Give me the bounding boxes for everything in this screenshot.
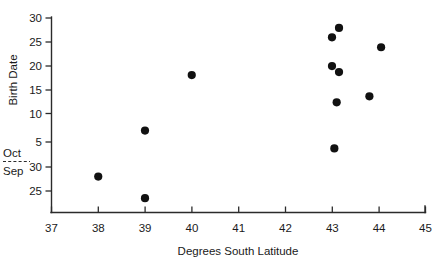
month-label-sep: Sep bbox=[3, 165, 23, 177]
y-tick-label: 5 bbox=[36, 136, 42, 148]
y-tick-labels-october: 30 25 20 15 10 5 bbox=[29, 12, 42, 148]
data-point bbox=[335, 24, 343, 32]
x-tick-label: 44 bbox=[373, 222, 386, 234]
y-axis-title: Birth Date bbox=[7, 54, 19, 105]
x-tick-label: 40 bbox=[186, 222, 199, 234]
month-label-oct: Oct bbox=[3, 147, 22, 159]
data-point bbox=[377, 43, 385, 51]
x-tick-label: 45 bbox=[419, 222, 432, 234]
data-point bbox=[188, 71, 196, 79]
x-tick-labels: 37 38 39 40 41 42 43 44 45 bbox=[45, 222, 432, 234]
axes-group bbox=[51, 17, 426, 213]
data-point bbox=[328, 33, 336, 41]
y-tick-marks bbox=[46, 18, 52, 191]
y-tick-label: 25 bbox=[29, 185, 42, 197]
y-tick-label: 20 bbox=[29, 60, 42, 72]
data-point bbox=[333, 98, 341, 106]
data-point bbox=[94, 173, 102, 181]
data-points-layer bbox=[94, 24, 385, 202]
x-tick-label: 38 bbox=[92, 222, 105, 234]
y-tick-label: 25 bbox=[29, 36, 42, 48]
y-tick-labels-september: 30 25 bbox=[29, 161, 42, 197]
y-tick-label: 10 bbox=[29, 108, 42, 120]
data-point bbox=[365, 92, 373, 100]
y-tick-label: 30 bbox=[29, 161, 42, 173]
chart-canvas: 30 25 20 15 10 5 30 25 Oct Sep 37 38 39 … bbox=[0, 0, 440, 267]
x-tick-label: 37 bbox=[45, 222, 58, 234]
x-tick-label: 43 bbox=[326, 222, 339, 234]
month-break-annotation: Oct Sep bbox=[3, 147, 30, 177]
y-tick-label: 30 bbox=[29, 12, 42, 24]
data-point bbox=[330, 144, 338, 152]
x-tick-label: 42 bbox=[279, 222, 292, 234]
y-tick-label: 15 bbox=[29, 84, 42, 96]
data-point bbox=[335, 68, 343, 76]
x-tick-marks bbox=[52, 207, 426, 213]
data-point bbox=[328, 62, 336, 70]
x-tick-label: 39 bbox=[139, 222, 152, 234]
data-point bbox=[141, 194, 149, 202]
x-axis-title: Degrees South Latitude bbox=[178, 245, 299, 257]
data-point bbox=[141, 126, 149, 134]
x-tick-label: 41 bbox=[232, 222, 245, 234]
scatter-plot-figure: 30 25 20 15 10 5 30 25 Oct Sep 37 38 39 … bbox=[0, 0, 440, 267]
